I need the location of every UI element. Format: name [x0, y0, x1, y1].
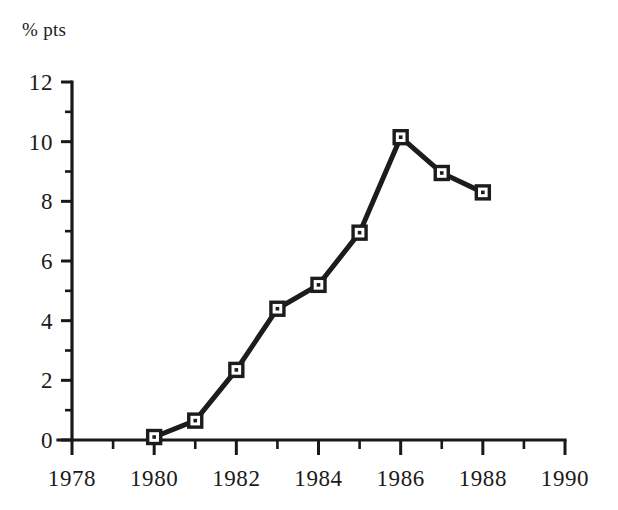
- x-tick-label: 1982: [212, 466, 260, 491]
- y-tick-label: 8: [41, 189, 53, 214]
- y-tick-label: 6: [41, 249, 53, 274]
- y-tick-label: 2: [41, 368, 53, 393]
- data-point-center-dot: [193, 419, 197, 423]
- data-point-center-dot: [235, 368, 239, 372]
- data-point-center-dot: [317, 283, 321, 287]
- chart-page: % pts 024681012 197819801982198419861988…: [0, 0, 618, 510]
- x-tick-label: 1978: [48, 466, 96, 491]
- y-tick-label: 4: [41, 309, 53, 334]
- data-markers: [148, 131, 490, 444]
- x-tick-labels: 1978198019821984198619881990: [48, 466, 589, 491]
- y-tick-labels: 024681012: [29, 70, 53, 453]
- x-tick-label: 1984: [294, 466, 342, 491]
- data-point-center-dot: [440, 171, 444, 175]
- data-point-center-dot: [399, 135, 403, 139]
- data-point-center-dot: [276, 307, 280, 311]
- x-axis: [58, 440, 565, 455]
- data-point-center-dot: [152, 435, 156, 439]
- y-axis: [61, 82, 72, 440]
- line-chart: 024681012 1978198019821984198619881990: [0, 0, 618, 510]
- x-tick-label: 1990: [541, 466, 589, 491]
- data-point-center-dot: [358, 231, 362, 235]
- y-tick-label: 10: [29, 130, 53, 155]
- data-point-center-dot: [481, 191, 485, 195]
- x-tick-label: 1986: [376, 466, 424, 491]
- y-tick-label: 12: [29, 70, 53, 95]
- y-tick-label: 0: [41, 428, 53, 453]
- x-tick-label: 1980: [130, 466, 178, 491]
- x-tick-label: 1988: [459, 466, 507, 491]
